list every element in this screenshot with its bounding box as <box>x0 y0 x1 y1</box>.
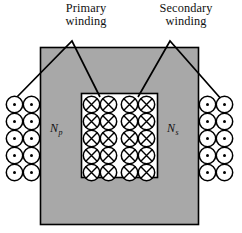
secondary-outer-coil-current-out-dot <box>206 120 209 123</box>
secondary-outer-coil-current-out-dot <box>206 103 209 106</box>
secondary-outer-coil <box>199 96 232 180</box>
secondary-turns-label-subscript: s <box>176 128 179 137</box>
primary-outer-coil-current-out-dot <box>13 137 16 140</box>
secondary-outer-coil-current-out-dot <box>223 103 226 106</box>
secondary-outer-coil-current-out-dot <box>223 171 226 174</box>
diagram-canvas: NpNs <box>0 0 242 233</box>
primary-outer-coil-current-out-dot <box>13 120 16 123</box>
primary-outer-coil-current-out-dot <box>13 103 16 106</box>
secondary-outer-coil-current-out-dot <box>223 154 226 157</box>
primary-outer-coil-current-out-dot <box>13 171 16 174</box>
transformer-diagram: Primary winding Secondary winding NpNs <box>0 0 242 233</box>
secondary-outer-coil-current-out-dot <box>223 137 226 140</box>
secondary-outer-coil-current-out-dot <box>206 171 209 174</box>
secondary-outer-coil-current-out-dot <box>223 120 226 123</box>
primary-outer-coil-current-out-dot <box>13 154 16 157</box>
primary-outer-coil-current-out-dot <box>30 171 33 174</box>
primary-outer-coil <box>6 96 39 180</box>
primary-outer-coil-current-out-dot <box>30 120 33 123</box>
primary-turns-label-subscript: p <box>58 128 63 137</box>
primary-outer-coil-current-out-dot <box>30 137 33 140</box>
primary-outer-coil-current-out-dot <box>30 103 33 106</box>
secondary-outer-coil-current-out-dot <box>206 154 209 157</box>
secondary-outer-coil-current-out-dot <box>206 137 209 140</box>
primary-outer-coil-current-out-dot <box>30 154 33 157</box>
